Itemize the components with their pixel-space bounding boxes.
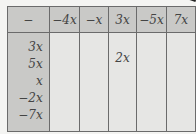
operator-cell: − <box>8 7 50 33</box>
row-header: 3x <box>8 39 43 56</box>
column-header: −5x <box>137 7 167 33</box>
column-header: −4x <box>49 7 79 33</box>
subtraction-grid: − −4x −x 3x −5x 7x 3x 5x x −2x −7x 2x <box>7 6 196 132</box>
answer-column[interactable] <box>80 33 109 132</box>
answer-column[interactable] <box>49 33 79 132</box>
row-header: 5x <box>8 56 43 73</box>
answer-column[interactable] <box>166 33 195 132</box>
header-row: − −4x −x 3x −5x 7x <box>8 7 196 33</box>
column-header: 7x <box>166 7 195 33</box>
answer-column[interactable]: 2x <box>108 33 136 132</box>
row-header: −2x <box>8 90 43 107</box>
row-header: x <box>8 73 43 90</box>
row-headers: 3x 5x x −2x −7x <box>8 33 50 132</box>
answer-cell-empty <box>109 33 136 50</box>
body-row: 3x 5x x −2x −7x 2x <box>8 33 196 132</box>
row-header: −7x <box>8 107 43 124</box>
column-header: −x <box>80 7 109 33</box>
column-header: 3x <box>108 7 136 33</box>
answer-cell: 2x <box>109 50 136 67</box>
answer-column[interactable] <box>137 33 167 132</box>
